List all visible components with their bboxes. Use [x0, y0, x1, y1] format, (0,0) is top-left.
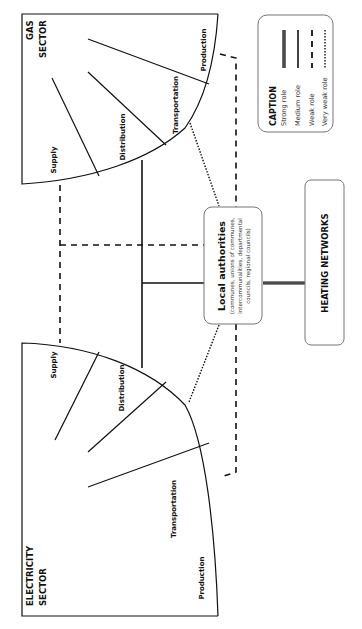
weak-line-elec-production: [221, 324, 236, 477]
gas-divider-distribution: [52, 78, 99, 176]
elec-segment-production: Production: [198, 556, 206, 599]
heating-networks-box: HEATING NETWORKS: [305, 180, 344, 345]
legend-title: CAPTION: [269, 86, 278, 126]
legend-label-very-weak: Very weak role: [321, 77, 329, 126]
sector-roles-diagram: GAS SECTOR Production Transportation Dis…: [0, 0, 362, 629]
elec-segment-distribution: Distribution: [118, 364, 126, 411]
legend-label-medium: Medium role: [294, 85, 302, 126]
legend: CAPTION Strong role Medium role Weak rol…: [258, 15, 333, 132]
dotted-line-elec-transportation: [189, 325, 219, 402]
elec-segment-supply: Supply: [50, 351, 58, 378]
gas-segment-distribution: Distribution: [119, 113, 127, 160]
gas-segment-production: Production: [200, 28, 208, 71]
elec-divider-distribution: [88, 382, 166, 452]
local-authorities-title: Local authorities: [216, 221, 227, 311]
gas-labels: GAS SECTOR Production Transportation Dis…: [25, 20, 208, 174]
dotted-line-gas-transportation: [190, 123, 219, 206]
local-authorities-box: Local authorities (communes, unions of c…: [204, 207, 262, 324]
local-authorities-sub-2: intercommunalities, departmental: [237, 218, 244, 314]
electricity-labels: ELECTRICITY SECTOR Production Transporta…: [25, 351, 206, 606]
local-authorities-sub-1: (communes, unions of communes,: [229, 217, 235, 314]
legend-label-weak: Weak role: [308, 93, 316, 126]
gas-divider-production: [88, 39, 209, 84]
elec-segment-transportation: Transportation: [170, 480, 178, 538]
weak-line-gas-production: [220, 54, 236, 207]
electricity-sector-title-1: ELECTRICITY: [25, 545, 35, 606]
legend-label-strong: Strong role: [280, 90, 288, 126]
heating-networks-title: HEATING NETWORKS: [320, 213, 330, 312]
elec-divider-supply: [55, 352, 99, 440]
electricity-sector-title-2: SECTOR: [38, 568, 48, 606]
medium-role-connectors: [142, 160, 204, 368]
gas-segment-transportation: Transportation: [172, 76, 180, 134]
elec-divider-transportation: [88, 443, 209, 487]
gas-sector-title-1: GAS: [25, 20, 35, 40]
gas-segment-supply: Supply: [50, 146, 58, 173]
gas-divider-transportation: [88, 72, 166, 145]
gas-sector-title-2: SECTOR: [38, 20, 48, 58]
local-authorities-sub-3: councils, regional councils): [245, 228, 252, 304]
